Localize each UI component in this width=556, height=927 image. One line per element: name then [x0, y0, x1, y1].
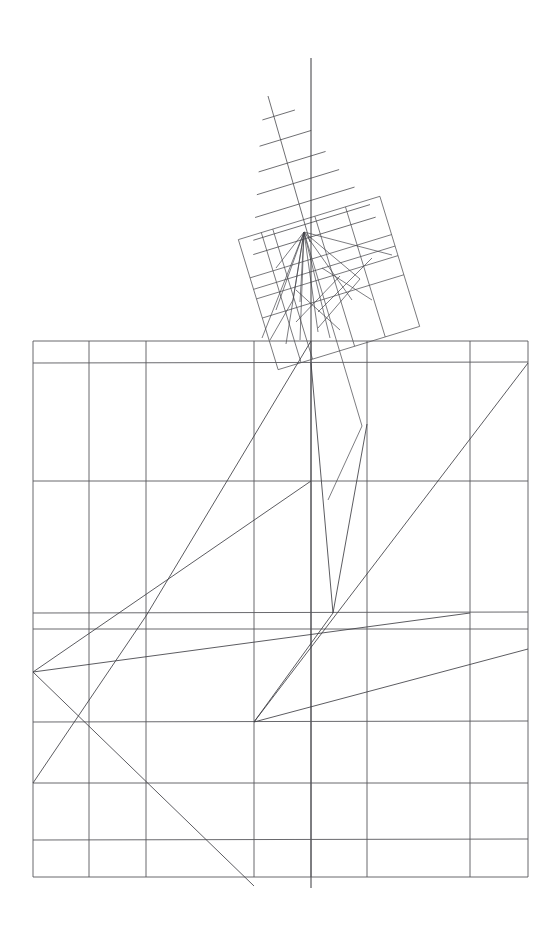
figure-svg	[0, 0, 556, 927]
canvas-background	[0, 0, 556, 927]
drawing-canvas	[0, 0, 556, 927]
